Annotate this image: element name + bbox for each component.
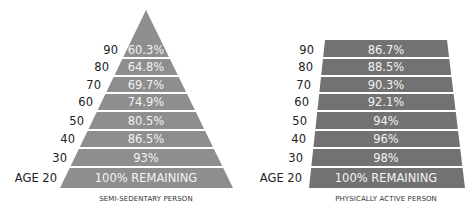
value-label: 74.9% xyxy=(128,95,165,109)
age-label: 70 xyxy=(86,78,101,92)
infographic-canvas: 90 80 70 60 50 40 30 AGE 20 60.3% 64.8% … xyxy=(0,0,467,215)
value-label: 98% xyxy=(373,151,399,165)
age-label: 50 xyxy=(292,114,307,128)
active-caption: PHYSICALLY ACTIVE PERSON xyxy=(335,195,437,203)
value-label: 88.5% xyxy=(368,60,405,74)
value-label: 90.3% xyxy=(368,78,405,92)
value-label: 60.3% xyxy=(128,43,165,57)
age-label: 30 xyxy=(288,151,303,165)
age-label: 60 xyxy=(294,95,309,109)
age-label: 80 xyxy=(94,60,109,74)
value-label: 93% xyxy=(133,151,159,165)
age-label: 80 xyxy=(298,60,313,74)
active-trapezoid-chart: 90 80 70 60 50 40 30 AGE 20 86.7% 88.5% … xyxy=(260,40,467,203)
value-label: 86.7% xyxy=(368,43,405,57)
age-label: 40 xyxy=(60,132,75,146)
value-label: 92.1% xyxy=(368,95,405,109)
value-label: 64.8% xyxy=(128,60,165,74)
value-label: 86.5% xyxy=(128,132,165,146)
sedentary-caption: SEMI-SEDENTARY PERSON xyxy=(99,195,193,203)
value-label: 69.7% xyxy=(128,78,165,92)
value-label: 94% xyxy=(373,114,399,128)
age-label: 90 xyxy=(299,43,314,57)
age-label: 30 xyxy=(52,151,67,165)
value-label: 80.5% xyxy=(128,114,165,128)
sedentary-pyramid-chart: 90 80 70 60 50 40 30 AGE 20 60.3% 64.8% … xyxy=(15,10,250,203)
age-label: AGE 20 xyxy=(260,171,302,185)
value-label: 100% REMAINING xyxy=(335,171,437,185)
age-label: 90 xyxy=(103,43,118,57)
value-label: 96% xyxy=(373,132,399,146)
age-label: 50 xyxy=(69,114,84,128)
age-label: 70 xyxy=(296,78,311,92)
age-label: 60 xyxy=(78,95,93,109)
active-age-labels: 90 80 70 60 50 40 30 AGE 20 xyxy=(260,43,314,185)
age-label: AGE 20 xyxy=(15,171,57,185)
value-label: 100% REMAINING xyxy=(95,171,197,185)
age-label: 40 xyxy=(291,132,306,146)
